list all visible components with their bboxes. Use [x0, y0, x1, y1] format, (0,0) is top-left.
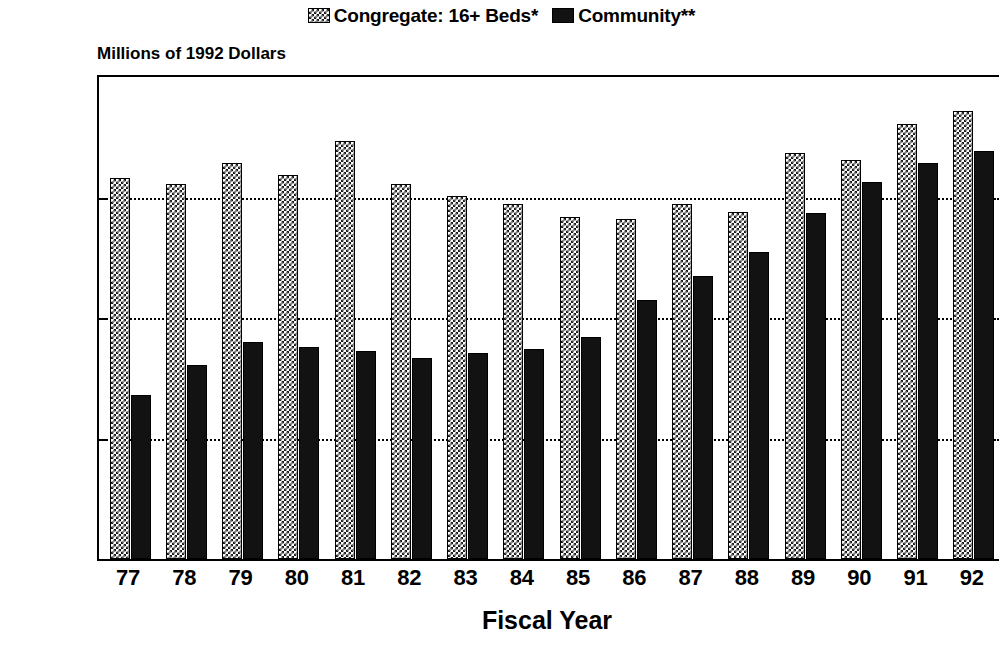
legend-label-congregate: Congregate: 16+ Beds* — [334, 6, 538, 25]
bar-community-80 — [299, 347, 319, 559]
y-tick-mark — [99, 439, 107, 441]
bar-congregate-86 — [616, 219, 636, 559]
legend-entry-community: Community** — [552, 6, 695, 25]
bar-congregate-87 — [672, 204, 692, 559]
bar-community-82 — [412, 358, 432, 559]
legend-swatch-congregate-icon — [308, 8, 330, 23]
x-tick-label-85: 85 — [566, 565, 590, 591]
bar-congregate-83 — [447, 196, 467, 559]
x-tick-label-81: 81 — [341, 565, 365, 591]
bar-congregate-90 — [841, 160, 861, 559]
x-tick-label-90: 90 — [847, 565, 871, 591]
x-tick-label-87: 87 — [678, 565, 702, 591]
bar-community-77 — [131, 395, 151, 559]
bar-community-85 — [581, 337, 601, 559]
bar-congregate-88 — [728, 212, 748, 559]
chart-legend: Congregate: 16+ Beds* Community** — [0, 0, 1003, 30]
bar-community-91 — [918, 163, 938, 559]
bar-community-86 — [637, 300, 657, 559]
x-tick-label-84: 84 — [510, 565, 534, 591]
bar-community-87 — [693, 276, 713, 559]
y-tick-mark — [99, 198, 107, 200]
x-tick-label-77: 77 — [116, 565, 140, 591]
y-tick-mark — [99, 318, 107, 320]
bar-congregate-85 — [560, 217, 580, 559]
x-axis-title: Fiscal Year — [97, 606, 997, 635]
bar-congregate-81 — [335, 141, 355, 559]
x-tick-label-92: 92 — [960, 565, 984, 591]
x-axis-labels: 77787980818283848586878889909192 — [97, 565, 997, 597]
legend-entry-congregate: Congregate: 16+ Beds* — [308, 6, 538, 25]
bar-congregate-91 — [897, 124, 917, 559]
x-tick-label-80: 80 — [285, 565, 309, 591]
bar-congregate-84 — [503, 204, 523, 559]
legend-label-community: Community** — [578, 6, 695, 25]
bar-community-84 — [524, 349, 544, 559]
x-tick-label-82: 82 — [397, 565, 421, 591]
bar-community-90 — [862, 182, 882, 559]
x-tick-label-86: 86 — [622, 565, 646, 591]
x-tick-label-91: 91 — [903, 565, 927, 591]
bar-chart: Congregate: 16+ Beds* Community** Millio… — [0, 0, 1003, 651]
plot-area: $0.0$50.0$100.0$150.0$200.0 — [97, 75, 999, 561]
bar-community-89 — [806, 213, 826, 559]
x-tick-label-78: 78 — [172, 565, 196, 591]
bar-congregate-80 — [278, 175, 298, 559]
bar-community-79 — [243, 342, 263, 559]
x-tick-label-83: 83 — [453, 565, 477, 591]
bar-congregate-82 — [391, 184, 411, 559]
bar-community-81 — [356, 351, 376, 559]
y-axis-caption: Millions of 1992 Dollars — [97, 44, 286, 64]
x-tick-label-79: 79 — [228, 565, 252, 591]
bars-container — [99, 77, 999, 559]
bar-community-88 — [749, 252, 769, 559]
bar-congregate-89 — [785, 153, 805, 559]
bar-congregate-79 — [222, 163, 242, 559]
x-tick-label-89: 89 — [791, 565, 815, 591]
bar-community-78 — [187, 365, 207, 559]
bar-congregate-92 — [953, 111, 973, 559]
bar-community-83 — [468, 353, 488, 559]
bar-congregate-77 — [110, 178, 130, 559]
bar-congregate-78 — [166, 184, 186, 559]
legend-swatch-community-icon — [552, 8, 574, 23]
bar-community-92 — [974, 151, 994, 559]
x-tick-label-88: 88 — [735, 565, 759, 591]
